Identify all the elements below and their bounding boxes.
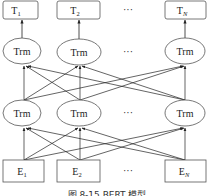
lower-ellipsis: ··· (123, 107, 133, 118)
output-token-2: T2 (57, 1, 100, 19)
upper-trm-n: Trm (165, 38, 205, 64)
input-embedding-1: E1 (3, 160, 44, 182)
svg-text:Trm: Trm (177, 108, 194, 119)
output-ellipsis: ··· (123, 4, 133, 15)
input-embedding-2: E2 (57, 160, 100, 182)
lower-trm-1: Trm (3, 100, 41, 126)
svg-text:Trm: Trm (14, 108, 31, 119)
svg-text:Trm: Trm (71, 47, 88, 58)
upper-trm-2: Trm (57, 39, 101, 65)
lower-trm-2: Trm (57, 100, 101, 126)
bert-diagram: T1 T2 ··· TN Trm Trm ··· Trm (0, 0, 214, 196)
lower-to-upper-arrows (24, 66, 185, 100)
upper-trm-1: Trm (3, 38, 41, 64)
figure-caption: 图 8-15 BERT 模型 (68, 190, 147, 196)
lower-trm-n: Trm (165, 100, 205, 126)
output-token-1: T1 (3, 1, 38, 19)
input-embedding-n: EN (165, 160, 206, 182)
input-ellipsis: ··· (123, 165, 133, 176)
svg-text:Trm: Trm (14, 46, 31, 57)
upper-ellipsis: ··· (123, 46, 133, 57)
svg-text:Trm: Trm (177, 46, 194, 57)
input-to-lower-arrows (24, 128, 185, 160)
svg-text:Trm: Trm (71, 108, 88, 119)
upper-to-output-arrows (22, 20, 185, 39)
output-token-n: TN (165, 1, 206, 19)
